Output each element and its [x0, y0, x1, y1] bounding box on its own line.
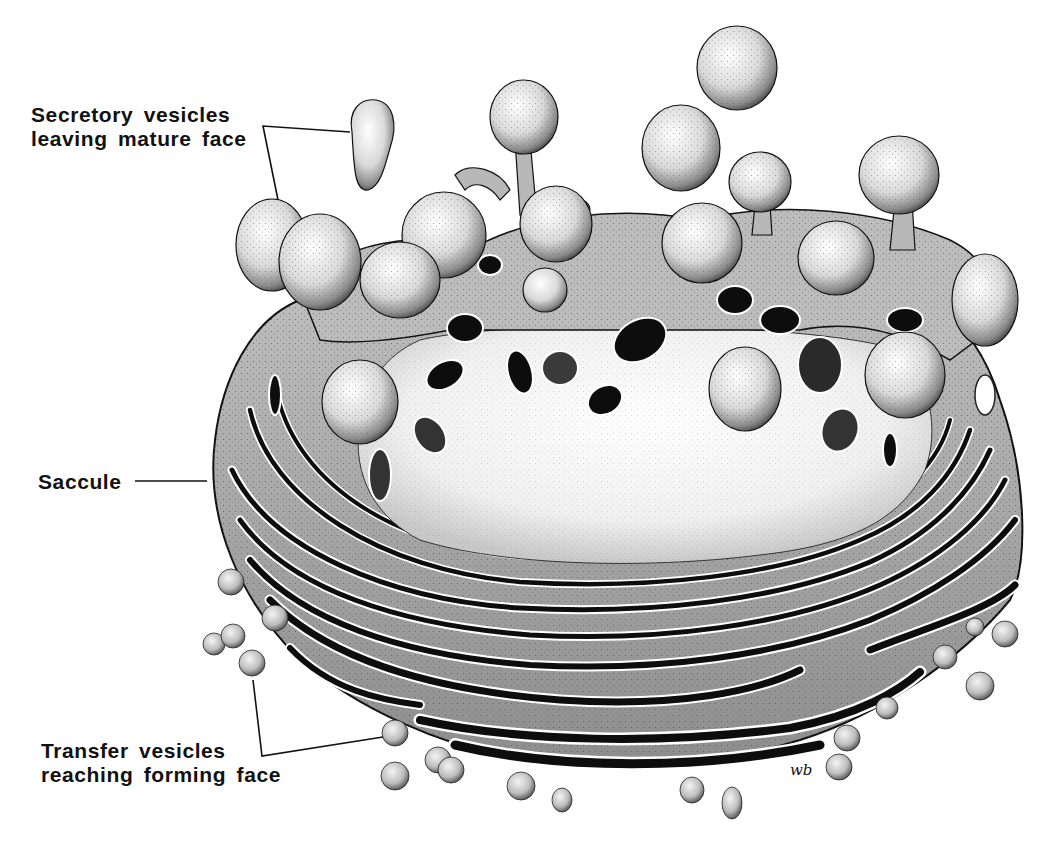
label-secretory-vesicles: Secretory vesicles leaving mature face [31, 103, 247, 151]
label-saccule: Saccule [38, 470, 122, 494]
artist-signature: wb [790, 761, 812, 779]
faint-caption-bleedthrough [40, 820, 1000, 832]
label-saccule-text: Saccule [38, 470, 122, 494]
leader-line-secretory [263, 126, 350, 200]
label-transfer-vesicles: Transfer vesicles reaching forming face [41, 739, 281, 787]
label-secretory-line2: leaving mature face [31, 127, 247, 151]
label-transfer-line1: Transfer vesicles [41, 739, 281, 763]
label-transfer-line2: reaching forming face [41, 763, 281, 787]
label-secretory-line1: Secretory vesicles [31, 103, 247, 127]
